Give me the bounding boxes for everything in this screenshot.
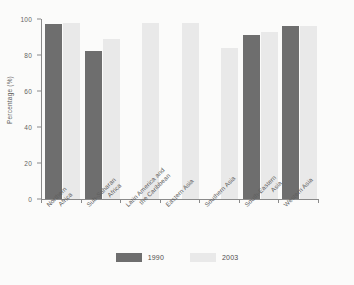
x-tick-mark bbox=[81, 199, 82, 203]
y-axis-label: Percentage (%) bbox=[6, 76, 13, 124]
x-tick-mark bbox=[160, 199, 161, 203]
x-tick-mark bbox=[278, 199, 279, 203]
bar-fill bbox=[261, 32, 278, 199]
y-tick-label: 40 bbox=[0, 124, 32, 131]
bar bbox=[45, 24, 62, 199]
legend-swatch bbox=[190, 253, 216, 262]
x-tick-mark bbox=[239, 199, 240, 203]
bar-fill bbox=[85, 51, 102, 199]
legend-label: 1990 bbox=[148, 254, 164, 261]
chart-legend: 19902003 bbox=[0, 253, 354, 262]
bar-fill bbox=[45, 24, 62, 199]
bar-fill bbox=[243, 35, 260, 199]
x-tick-mark bbox=[318, 199, 319, 203]
bar bbox=[282, 26, 299, 199]
bar bbox=[261, 32, 278, 199]
bar-group bbox=[124, 19, 156, 199]
bar bbox=[85, 51, 102, 199]
y-tick-label: 20 bbox=[0, 160, 32, 167]
bar bbox=[300, 26, 317, 199]
bar-group bbox=[85, 19, 117, 199]
bar-fill bbox=[300, 26, 317, 199]
y-tick-label: 80 bbox=[0, 52, 32, 59]
legend-item: 1990 bbox=[116, 253, 164, 262]
bar-fill bbox=[63, 23, 80, 199]
bar-group bbox=[45, 19, 77, 199]
bar bbox=[63, 23, 80, 199]
legend-item: 2003 bbox=[190, 253, 238, 262]
x-tick-mark bbox=[120, 199, 121, 203]
y-tick-label: 60 bbox=[0, 88, 32, 95]
bar-fill bbox=[282, 26, 299, 199]
plot-area bbox=[41, 19, 318, 199]
y-tick-label: 0 bbox=[0, 196, 32, 203]
x-axis-line bbox=[41, 199, 319, 200]
x-tick-mark bbox=[199, 199, 200, 203]
x-tick-mark bbox=[41, 199, 42, 203]
bar-fill bbox=[182, 23, 199, 199]
bar-group bbox=[164, 19, 196, 199]
legend-label: 2003 bbox=[222, 254, 238, 261]
y-tick-label: 100 bbox=[0, 16, 32, 23]
bar-chart: Percentage (%) 020406080100 NorthernAfri… bbox=[0, 0, 354, 285]
legend-swatch bbox=[116, 253, 142, 262]
bar-group bbox=[203, 19, 235, 199]
bar bbox=[243, 35, 260, 199]
bar-group bbox=[243, 19, 275, 199]
bar bbox=[182, 23, 199, 199]
bar-group bbox=[282, 19, 314, 199]
